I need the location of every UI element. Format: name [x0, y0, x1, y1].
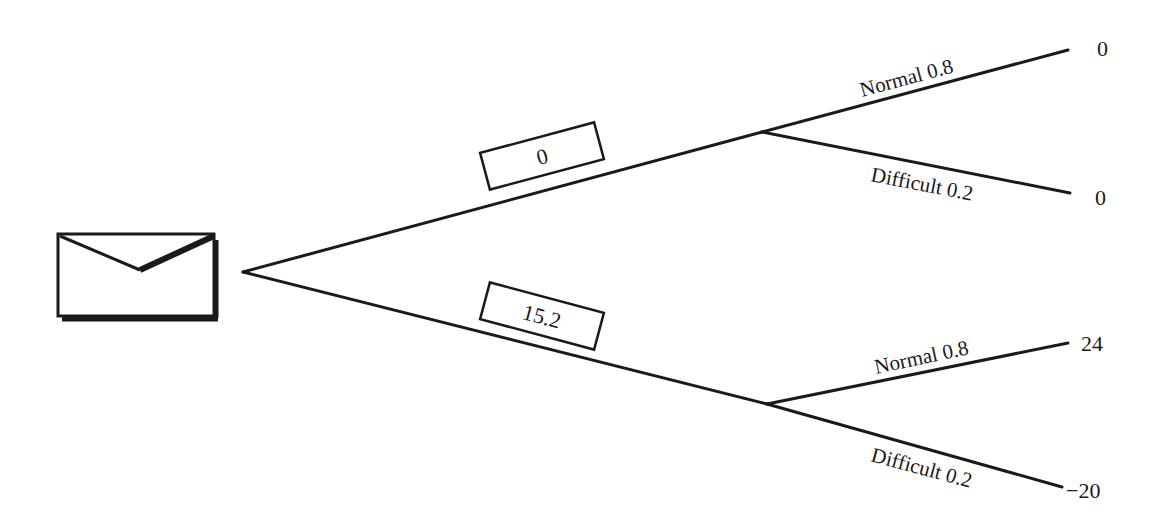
decision-tree-diagram: 0 15.2 Normal 0.8 Difficult 0.2 Normal 0…	[0, 0, 1164, 526]
payoff-lower-normal: 24	[1081, 331, 1103, 356]
payoff-upper-normal: 0	[1097, 36, 1108, 61]
envelope-icon	[58, 234, 218, 319]
payoff-upper-difficult: 0	[1095, 185, 1106, 210]
label-lower-difficult: Difficult 0.2	[869, 443, 975, 493]
payoff-lower-difficult: −20	[1066, 478, 1100, 503]
label-upper-difficult: Difficult 0.2	[869, 162, 975, 205]
value-box-lower: 15.2	[480, 282, 604, 349]
